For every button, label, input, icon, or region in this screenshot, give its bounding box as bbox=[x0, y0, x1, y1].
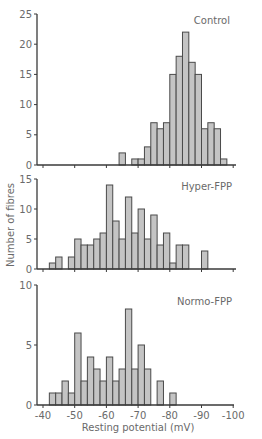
y-tick-label: 25 bbox=[19, 9, 32, 20]
histogram-bar bbox=[214, 129, 220, 165]
y-tick-label: 10 bbox=[19, 204, 32, 215]
histogram-bar bbox=[163, 233, 169, 269]
histogram-bar bbox=[138, 159, 144, 165]
histogram-bar bbox=[144, 147, 150, 165]
histogram-bar bbox=[119, 153, 125, 165]
histogram-bar bbox=[170, 263, 176, 269]
y-tick-label: 5 bbox=[26, 340, 32, 351]
histogram-bar bbox=[157, 381, 163, 405]
histogram-bar bbox=[132, 369, 138, 405]
histogram-bar bbox=[106, 357, 112, 405]
histogram-bar bbox=[56, 257, 62, 269]
histogram-bar bbox=[100, 381, 106, 405]
histogram-bar bbox=[125, 197, 131, 269]
x-tick-label: -70 bbox=[130, 410, 146, 421]
y-tick-label: 15 bbox=[19, 174, 32, 185]
bars bbox=[49, 185, 208, 269]
histogram-bar bbox=[68, 257, 74, 269]
histogram-bar bbox=[94, 239, 100, 269]
panel-control: 0510152025Control bbox=[19, 9, 236, 171]
histogram-bar bbox=[138, 209, 144, 269]
histogram-bar bbox=[163, 123, 169, 165]
histogram-bar bbox=[113, 381, 119, 405]
bars bbox=[119, 32, 227, 165]
y-tick-label: 0 bbox=[26, 264, 32, 275]
histogram-bar bbox=[221, 159, 227, 165]
histogram-bar bbox=[75, 333, 81, 405]
histogram-bar bbox=[151, 215, 157, 269]
histogram-bar bbox=[94, 369, 100, 405]
panel-label: Normo-FPP bbox=[177, 296, 232, 307]
histogram-bar bbox=[119, 369, 125, 405]
panel-normo-fpp: 0510Normo-FPP bbox=[19, 280, 234, 411]
histogram-bar bbox=[176, 56, 182, 165]
histogram-bar bbox=[132, 233, 138, 269]
panel-label: Hyper-FPP bbox=[181, 181, 232, 192]
histogram-bar bbox=[100, 233, 106, 269]
y-tick-label: 10 bbox=[19, 280, 32, 291]
x-axis-tick-labels: -40-50-60-70-80-90-100 bbox=[35, 410, 245, 421]
histogram-bar bbox=[144, 239, 150, 269]
histogram-bar bbox=[56, 393, 62, 405]
histogram-bar bbox=[81, 245, 87, 269]
histogram-bar bbox=[157, 129, 163, 165]
histogram-figure: 0510152025Control051015Hyper-FPP0510Norm… bbox=[0, 0, 262, 439]
histogram-bar bbox=[182, 32, 188, 165]
bars bbox=[49, 309, 176, 405]
histogram-bar bbox=[182, 245, 188, 269]
x-tick-label: -80 bbox=[162, 410, 178, 421]
histogram-bar bbox=[138, 345, 144, 405]
histogram-bar bbox=[132, 159, 138, 165]
y-tick-label: 15 bbox=[19, 69, 32, 80]
panel-hyper-fpp: 051015Hyper-FPP bbox=[19, 174, 236, 275]
histogram-bar bbox=[113, 221, 119, 269]
y-tick-label: 5 bbox=[26, 234, 32, 245]
histogram-bar bbox=[119, 239, 125, 269]
histogram-bar bbox=[106, 185, 112, 269]
histogram-bar bbox=[49, 393, 55, 405]
histogram-bar bbox=[151, 123, 157, 165]
histogram-panels: 0510152025Control051015Hyper-FPP0510Norm… bbox=[19, 9, 236, 411]
x-tick-label: -40 bbox=[35, 410, 51, 421]
histogram-bar bbox=[208, 123, 214, 165]
y-tick-label: 0 bbox=[26, 400, 32, 411]
x-axis-label: Resting potential (mV) bbox=[82, 422, 195, 433]
y-tick-label: 10 bbox=[19, 99, 32, 110]
x-tick-label: -60 bbox=[98, 410, 114, 421]
y-axis-label: Number of fibres bbox=[5, 183, 16, 267]
histogram-bar bbox=[189, 62, 195, 165]
histogram-bar bbox=[68, 393, 74, 405]
histogram-bar bbox=[176, 245, 182, 269]
histogram-bar bbox=[62, 381, 68, 405]
histogram-bar bbox=[170, 74, 176, 165]
y-tick-label: 0 bbox=[26, 160, 32, 171]
histogram-bar bbox=[202, 129, 208, 165]
histogram-bar bbox=[87, 245, 93, 269]
histogram-bar bbox=[157, 245, 163, 269]
histogram-bar bbox=[170, 393, 176, 405]
histogram-bar bbox=[87, 357, 93, 405]
histogram-bar bbox=[144, 369, 150, 405]
x-tick-label: -100 bbox=[222, 410, 245, 421]
x-tick-label: -50 bbox=[67, 410, 83, 421]
histogram-bar bbox=[81, 381, 87, 405]
histogram-bar bbox=[202, 251, 208, 269]
x-tick-label: -90 bbox=[193, 410, 209, 421]
histogram-bar bbox=[49, 263, 55, 269]
panel-label: Control bbox=[194, 15, 230, 26]
histogram-bar bbox=[195, 74, 201, 165]
histogram-bar bbox=[75, 239, 81, 269]
y-tick-label: 20 bbox=[19, 39, 32, 50]
histogram-bar bbox=[125, 309, 131, 405]
y-tick-label: 5 bbox=[26, 129, 32, 140]
